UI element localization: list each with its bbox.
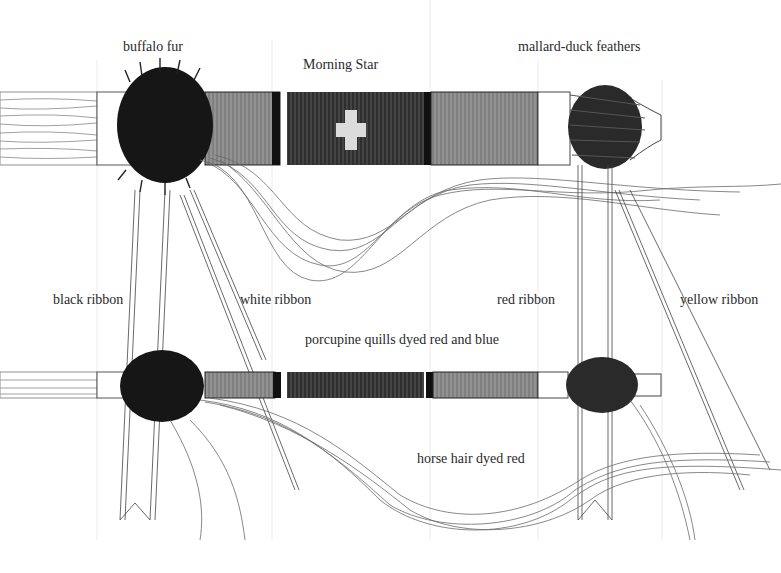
pipe-stem-diagram: buffalo fur Morning Star mallard-duck fe…: [0, 0, 781, 573]
label-horse-hair: horse hair dyed red: [417, 452, 525, 466]
label-mallard-duck-feathers: mallard-duck feathers: [518, 40, 640, 54]
label-buffalo-fur: buffalo fur: [123, 40, 183, 54]
label-red-ribbon: red ribbon: [497, 293, 555, 307]
label-morning-star: Morning Star: [303, 58, 378, 72]
label-white-ribbon: white ribbon: [240, 293, 311, 307]
label-yellow-ribbon: yellow ribbon: [680, 293, 758, 307]
label-porcupine-quills: porcupine quills dyed red and blue: [305, 333, 499, 347]
label-black-ribbon: black ribbon: [53, 293, 123, 307]
